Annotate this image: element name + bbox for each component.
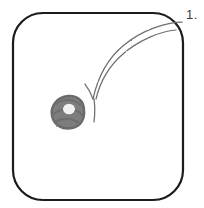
blob-hole <box>63 104 75 114</box>
frame-interior <box>13 13 183 200</box>
gray-scribble-blob <box>52 96 84 129</box>
figure-canvas: 1. <box>0 0 204 208</box>
panel-label: 1. <box>186 7 198 22</box>
figure-drawing <box>0 0 204 208</box>
